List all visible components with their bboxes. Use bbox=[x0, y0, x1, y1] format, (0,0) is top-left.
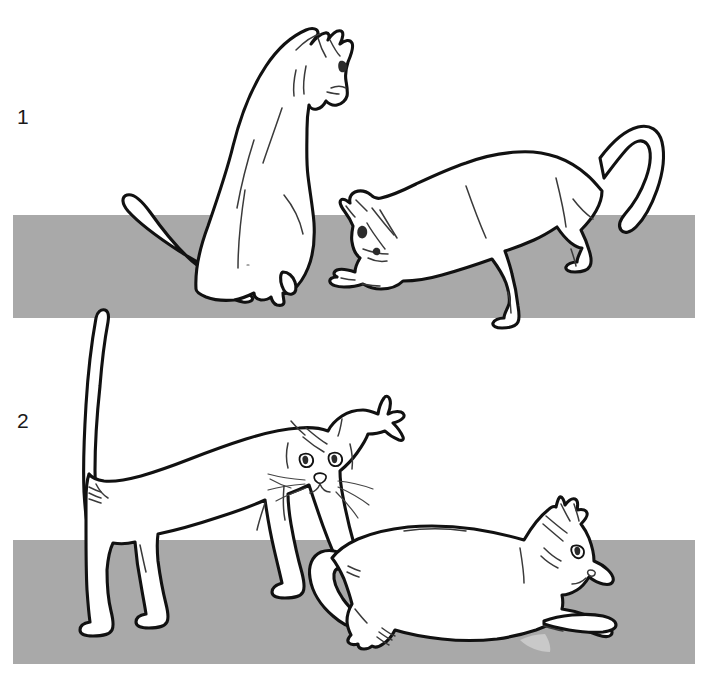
illustration-figure: 1 bbox=[0, 0, 708, 688]
standing-cat-shoulder-line bbox=[257, 503, 265, 530]
crouching-cat-eye bbox=[357, 226, 367, 239]
panel-1-number: 1 bbox=[17, 105, 29, 128]
whisker-right-1 bbox=[338, 481, 373, 489]
standing-cat-nose bbox=[314, 473, 326, 483]
panel-2: 2 bbox=[13, 310, 695, 664]
cat-postures-drawing: 1 bbox=[0, 0, 708, 688]
lying-cat bbox=[309, 497, 616, 652]
panel-2-number: 2 bbox=[17, 409, 29, 432]
panel-1: 1 bbox=[13, 29, 695, 328]
